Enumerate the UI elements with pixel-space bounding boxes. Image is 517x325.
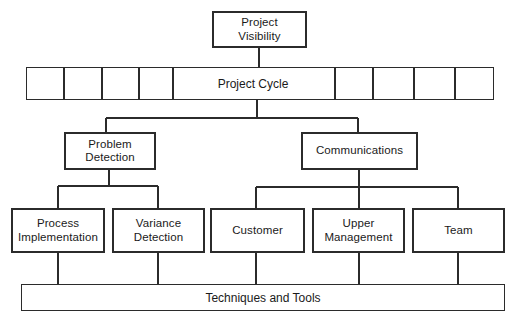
node-process-implementation[interactable]: Process Implementation xyxy=(11,208,105,253)
node-customer[interactable]: Customer xyxy=(210,208,305,253)
node-upper-management-label: Upper Management xyxy=(322,217,394,244)
cycle-cell-divider-1 xyxy=(63,67,65,100)
node-communications-label: Communications xyxy=(314,144,405,158)
node-team-label: Team xyxy=(442,224,475,238)
node-customer-label: Customer xyxy=(230,224,285,238)
cycle-cell-divider-3 xyxy=(138,67,140,100)
node-problem-detection-label: Problem Detection xyxy=(83,138,136,165)
node-upper-management[interactable]: Upper Management xyxy=(312,208,405,253)
cycle-cell-divider-5 xyxy=(334,67,336,100)
node-communications[interactable]: Communications xyxy=(301,132,418,170)
node-project-cycle-label: Project Cycle xyxy=(172,67,334,100)
node-team[interactable]: Team xyxy=(412,208,505,253)
cycle-cell-divider-7 xyxy=(413,67,415,100)
node-project-visibility-label: Project Visibility xyxy=(236,16,282,43)
cycle-cell-divider-2 xyxy=(101,67,103,100)
node-variance-detection-label: Variance Detection xyxy=(132,217,185,244)
node-techniques-and-tools[interactable]: Techniques and Tools xyxy=(21,284,505,311)
cycle-cell-divider-6 xyxy=(372,67,374,100)
node-problem-detection[interactable]: Problem Detection xyxy=(64,132,156,170)
node-variance-detection[interactable]: Variance Detection xyxy=(112,208,205,253)
node-techniques-and-tools-label: Techniques and Tools xyxy=(205,291,320,305)
node-process-implementation-label: Process Implementation xyxy=(16,217,100,244)
diagram-canvas: Project Visibility Project Cycle Problem… xyxy=(0,0,517,325)
node-project-visibility[interactable]: Project Visibility xyxy=(212,11,307,48)
cycle-cell-divider-8 xyxy=(454,67,456,100)
